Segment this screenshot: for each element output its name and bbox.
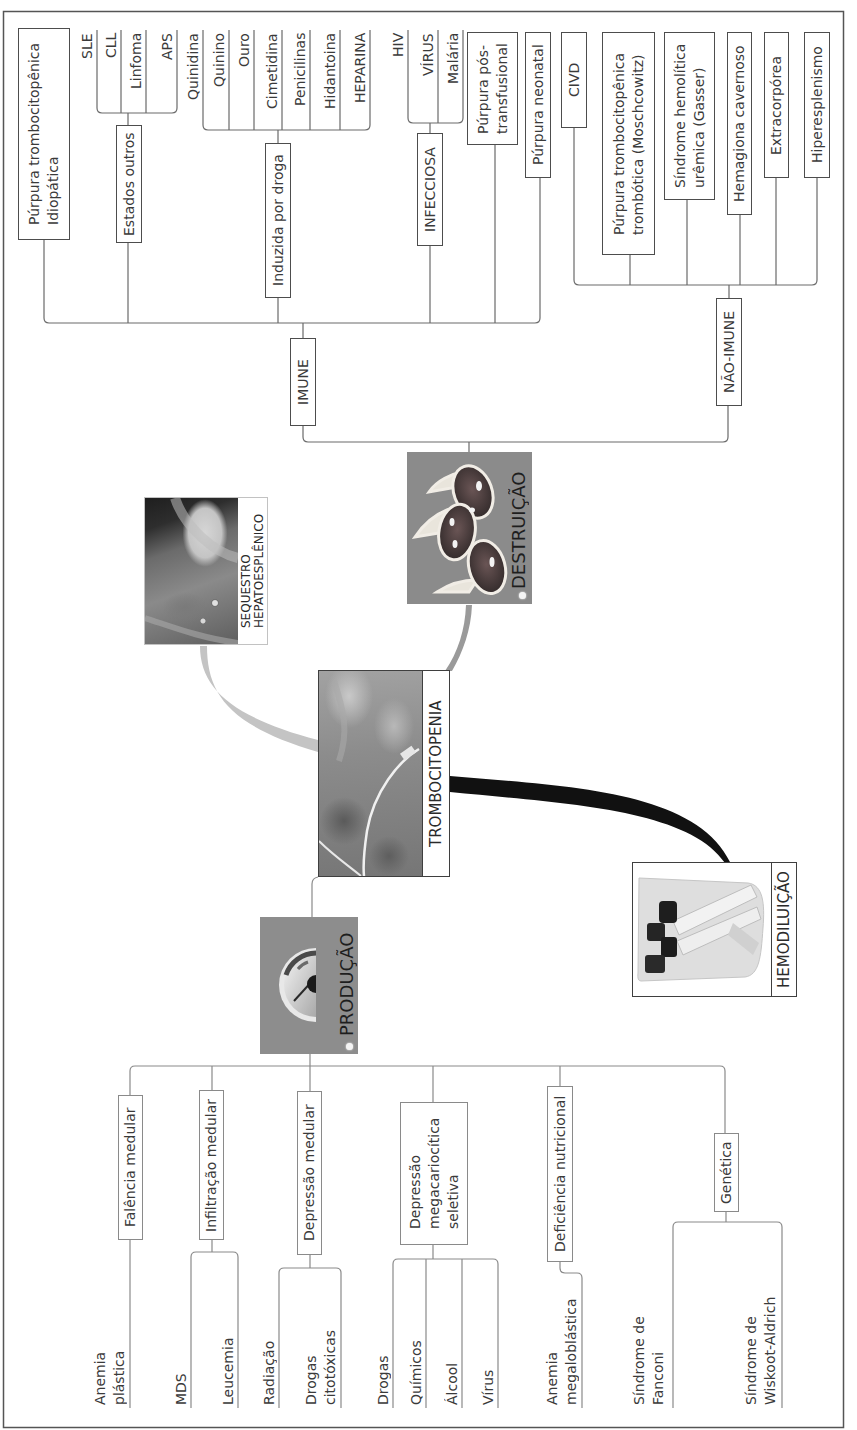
node-label: Depressão medular — [300, 1105, 319, 1242]
sequestration-branch — [200, 646, 318, 752]
node-deficiencia-nutricional: Deficiência nutricional — [547, 1086, 573, 1262]
node-label: CIVD — [565, 63, 584, 97]
node-producao: PRODUÇÃO — [260, 917, 358, 1054]
leaf-cimetidina: Cimetidina — [263, 33, 282, 127]
leaf-hiv: HIV — [389, 33, 408, 120]
node-trombocitopenia-image — [318, 670, 423, 877]
leaf-alcool: Álcool — [443, 1269, 462, 1405]
node-label: Síndrome hemolítica urêmica (Gasser) — [671, 44, 709, 188]
node-label: Induzida por droga — [269, 155, 288, 287]
leaf-quimicos: Químicos — [407, 1269, 426, 1405]
node-estados-outros: Estados outros — [116, 125, 142, 243]
sequestro-label: SEQUESTRO HEPATOESPLÊNICO — [238, 498, 268, 644]
leaf-drogas: Drogas — [374, 1269, 393, 1405]
node-label: Púrpura trombocitopênica Idiopática — [25, 43, 63, 225]
node-nao-imune: NÃO-IMUNE — [716, 298, 742, 406]
leaf-leucemia: Leucemia — [219, 1262, 238, 1405]
node-civd: CIVD — [561, 32, 587, 128]
node-label: Púrpura trombocitopênica trombótica (Mos… — [610, 52, 648, 234]
producao-label: PRODUÇÃO — [336, 922, 358, 1036]
leaf-penicilinas: Penicilinas — [291, 33, 310, 127]
node-label: Púrpura neonatal — [529, 45, 548, 166]
leaf-hidantoina: Hidantoina — [321, 33, 340, 127]
node-genetica: Genética — [714, 1133, 739, 1212]
topic-marker-icon — [346, 1043, 353, 1050]
leaf-sindrome-wiskoot-aldrich: Síndrome de Wiskoot-Aldrich — [742, 1232, 780, 1405]
blood-tubes-photo-icon — [633, 863, 771, 996]
node-depressao-megacariocitica-seletiva: Depressão megacariocítica seletiva — [400, 1102, 468, 1245]
leaf-quinino: Quinino — [210, 33, 229, 127]
node-imune: IMUNE — [290, 338, 316, 426]
node-label: Infiltração medular — [202, 1098, 221, 1231]
leaf-heparina: HEPARINA — [351, 33, 370, 127]
leaf-anemia-plastica: Anemia plástica — [91, 1280, 129, 1405]
leaf-quinidina: Quinidina — [184, 33, 203, 127]
skin-bruise-photo-icon — [319, 671, 422, 876]
destruction-branch — [445, 605, 472, 671]
leaf-cll: CLL — [102, 33, 121, 110]
node-trombocitopenia-label: TROMBOCITOPENIA — [422, 670, 450, 877]
destruicao-label: DESTRUIÇÃO — [508, 457, 530, 589]
node-hemagiona-cavernoso: Hemagiona cavernoso — [727, 32, 752, 215]
leaf-sindrome-fanconi: Síndrome de Fanconi — [630, 1232, 668, 1405]
node-falencia-medular: Falência medular — [118, 1095, 143, 1240]
node-label: Falência medular — [121, 1108, 140, 1228]
node-sequestro-hepatoesplenico: SEQUESTRO HEPATOESPLÊNICO — [144, 497, 268, 645]
node-shu-gasser: Síndrome hemolítica urêmica (Gasser) — [664, 32, 715, 200]
leaf-ouro: Ouro — [235, 33, 254, 127]
node-hemodiluicao-image — [632, 862, 772, 997]
leaf-sle: SLE — [78, 33, 97, 110]
node-label: Depressão megacariocítica seletiva — [406, 1118, 463, 1229]
node-ptt-moschcowitz: Púrpura trombocitopênica trombótica (Mos… — [602, 32, 655, 255]
node-purpura-idiopatica: Púrpura trombocitopênica Idiopática — [18, 28, 70, 240]
node-hiperesplenismo: Hiperesplenismo — [804, 32, 830, 178]
node-label: Hiperesplenismo — [808, 47, 827, 164]
node-label: Estados outros — [120, 132, 139, 236]
leaf-virus: VÍRUS — [419, 33, 438, 120]
hemodilution-branch — [450, 776, 730, 863]
node-hemodiluicao-label: HEMODILUIÇÃO — [771, 862, 797, 997]
node-purpura-neonatal: Púrpura neonatal — [525, 32, 551, 178]
node-label: IMUNE — [294, 359, 313, 405]
topic-marker-icon — [519, 592, 526, 599]
leaf-anemia-megaloblastica: Anemia megaloblástica — [543, 1283, 581, 1405]
node-induzida-por-droga: Induzida por droga — [265, 143, 291, 298]
leaf-virus-producao: Vírus — [479, 1269, 498, 1405]
node-label: INFECCIOSA — [421, 147, 440, 232]
node-label: NÃO-IMUNE — [720, 311, 739, 393]
leaf-aps: APS — [158, 33, 177, 110]
node-label: Deficiência nutricional — [551, 1096, 570, 1252]
leaf-linfoma: Linfoma — [127, 33, 146, 110]
node-purpura-pos-transfusional: Púrpura pós- transfusional — [467, 32, 518, 145]
leaf-radiacao: Radiação — [260, 1278, 279, 1405]
node-infiltracao-medular: Infiltração medular — [199, 1090, 224, 1240]
surgery-photo-icon — [145, 498, 238, 644]
node-infecciosa: INFECCIOSA — [417, 133, 443, 246]
node-label: Hemagiona cavernoso — [730, 45, 749, 202]
node-label: HEMODILUIÇÃO — [774, 871, 794, 988]
leaf-drogas-citotoxicas: Drogas citotóxicas — [302, 1278, 340, 1405]
surgery-photo-detail — [145, 498, 238, 644]
leaf-mds: MDS — [172, 1262, 191, 1405]
node-label: Extracorpórea — [767, 55, 786, 154]
leaf-malaria: Malária — [444, 33, 463, 120]
node-depressao-medular: Depressão medular — [297, 1091, 322, 1255]
node-label: SEQUESTRO HEPATOESPLÊNICO — [240, 514, 267, 628]
node-label: Púrpura pós- transfusional — [474, 43, 512, 134]
node-label: Genética — [717, 1141, 736, 1204]
node-destruicao: DESTRUIÇÃO — [407, 452, 532, 604]
node-extracorporea: Extracorpórea — [764, 32, 789, 178]
node-label: TROMBOCITOPENIA — [426, 700, 446, 846]
mind-map-canvas: SLE CLL Linfoma APS Quinidina Quinino Ou… — [0, 0, 857, 1430]
